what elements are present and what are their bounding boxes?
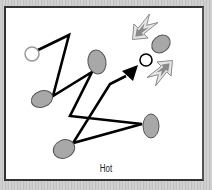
node-ellipse[interactable] — [29, 88, 55, 111]
arrowhead-icon — [122, 65, 138, 81]
node-ellipse[interactable] — [143, 114, 159, 138]
path-diagram — [0, 0, 212, 190]
route-path — [36, 35, 142, 143]
node-ellipse[interactable] — [86, 49, 108, 76]
start-circle[interactable] — [25, 47, 39, 61]
caption-label: Hot — [21, 163, 191, 174]
target-circle[interactable] — [140, 54, 152, 66]
node-ellipse[interactable] — [148, 31, 174, 56]
